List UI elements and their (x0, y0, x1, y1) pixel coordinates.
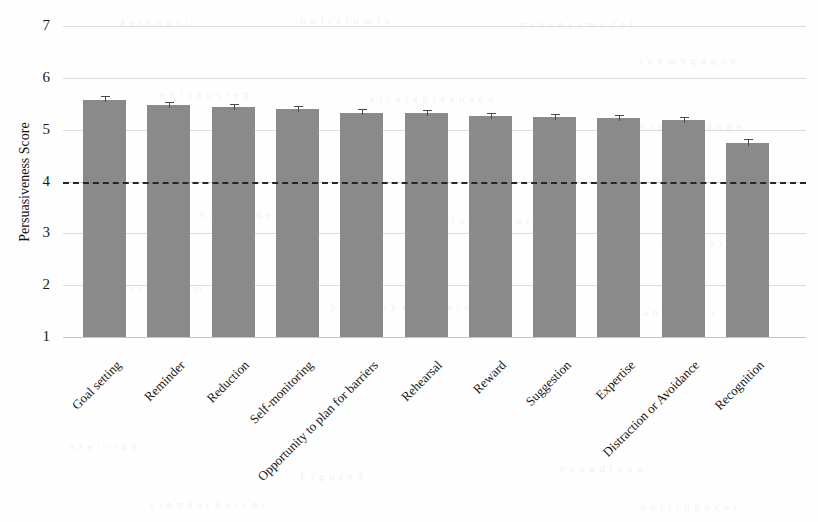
x-axis-category-label: Self-monitoring (94, 357, 317, 522)
bar (469, 116, 512, 337)
bar (83, 100, 126, 337)
error-bar-cap (744, 139, 753, 140)
gridline (63, 78, 806, 79)
y-axis-tick-label: 6 (28, 70, 50, 85)
x-axis-category-label: Expertise (415, 357, 638, 522)
error-bar-cap (615, 115, 624, 116)
error-bar-cap (101, 96, 110, 97)
x-axis-category-label: Reward (287, 357, 510, 522)
error-bar-cap (294, 106, 303, 107)
error-bar-cap (680, 117, 689, 118)
gridline (63, 26, 806, 27)
error-bar-cap (487, 113, 496, 114)
x-axis-category-label: Suggestion (351, 357, 574, 522)
y-axis-tick-label: 2 (28, 277, 50, 292)
y-axis-tick-label: 3 (28, 225, 50, 240)
y-axis-tick-label: 5 (28, 122, 50, 137)
error-bar-cap (551, 114, 560, 115)
x-axis-baseline (63, 337, 806, 338)
bar (662, 120, 705, 337)
x-axis-category-label: Distraction or Avoidance (479, 357, 702, 522)
y-axis-tick-label: 7 (28, 18, 50, 33)
x-axis-category-label: Opportunity to plan for barriers (158, 357, 381, 522)
error-bar-cap (165, 102, 174, 103)
bar (212, 107, 255, 337)
threshold-reference-line (63, 182, 806, 184)
bar (276, 109, 319, 337)
error-bar-cap (358, 109, 367, 110)
y-axis-tick-label: 4 (28, 174, 50, 189)
bar (147, 105, 190, 337)
x-axis-category-label: Reduction (29, 357, 252, 522)
bar (726, 143, 769, 337)
x-axis-category-label: Recognition (544, 357, 767, 522)
error-bar-cap (230, 104, 239, 105)
bar (340, 113, 383, 337)
bar (597, 118, 640, 337)
y-axis-tick-label: 1 (28, 329, 50, 344)
bar-chart: Persuasiveness Score 1234567 Goal settin… (0, 0, 818, 522)
error-bar (748, 139, 749, 146)
x-axis-category-label: Rehearsal (222, 357, 445, 522)
bar (533, 117, 576, 337)
bar (405, 113, 448, 337)
error-bar-cap (423, 110, 432, 111)
